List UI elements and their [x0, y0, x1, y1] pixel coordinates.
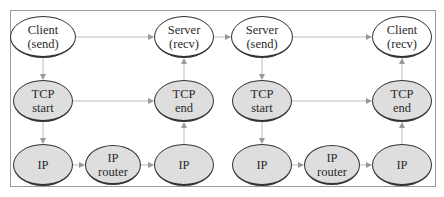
node-label-line1: IP [256, 158, 267, 172]
node-label-line1: Server [246, 23, 279, 37]
node-label-line1: IP [178, 158, 189, 172]
node-server-recv: Server(recv) [154, 16, 214, 58]
node-ip-router-1: IProuter [85, 145, 141, 185]
node-label-line2: (recv) [169, 37, 199, 51]
node-ip-router-2: IProuter [304, 145, 360, 185]
node-label-line1: IP [396, 158, 407, 172]
node-label-line1: IP [326, 151, 337, 165]
node-ip-2a: IP [232, 144, 292, 186]
node-label-line1: IP [107, 151, 118, 165]
node-tcp-start-1: TCPstart [13, 80, 73, 122]
node-ip-2b: IP [372, 144, 432, 186]
node-label-line2: (send) [246, 37, 277, 51]
node-label-line2: (recv) [387, 37, 417, 51]
node-ip-1a: IP [13, 144, 73, 186]
node-label-line2: start [32, 101, 54, 115]
node-server-send: Server(send) [231, 16, 293, 58]
node-label-line2: start [251, 101, 273, 115]
node-label-line1: Client [28, 23, 59, 37]
node-client-send: Client(send) [10, 16, 76, 58]
node-label-line1: IP [37, 158, 48, 172]
node-tcp-end-2: TCPend [372, 80, 432, 122]
node-label-line2: router [317, 165, 347, 179]
node-label-line2: (send) [27, 37, 58, 51]
node-label-line1: TCP [32, 87, 55, 101]
node-label-line1: Server [168, 23, 201, 37]
node-ip-1b: IP [154, 144, 214, 186]
node-label-line2: end [175, 101, 193, 115]
node-tcp-end-1: TCPend [154, 80, 214, 122]
node-label-line1: TCP [251, 87, 274, 101]
node-client-recv: Client(recv) [372, 16, 432, 58]
node-label-line1: TCP [391, 87, 414, 101]
node-label-line1: TCP [173, 87, 196, 101]
node-label-line2: router [98, 165, 128, 179]
node-label-line1: Client [387, 23, 418, 37]
node-tcp-start-2: TCPstart [232, 80, 292, 122]
node-label-line2: end [393, 101, 411, 115]
